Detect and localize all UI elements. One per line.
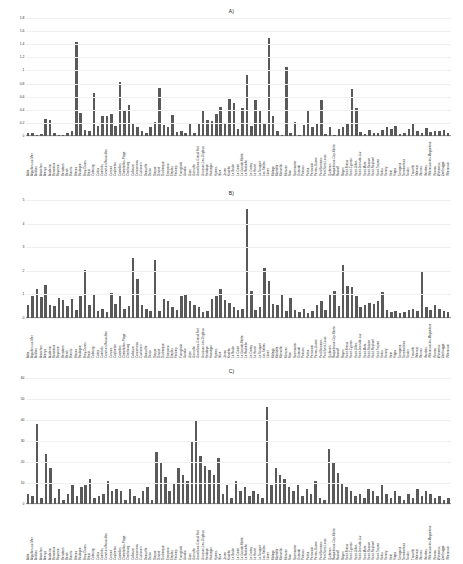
panel-c-plot: MAE (euros/inhabitant) 0102030405060 Adr…	[26, 378, 451, 504]
bar	[355, 296, 357, 318]
x-axis-tick-label: Hossegor	[210, 136, 213, 176]
x-axis-tick-label: Nice	[289, 504, 292, 560]
bar	[381, 485, 383, 504]
x-axis-tick-label: Fecamp	[175, 318, 178, 358]
bar	[328, 449, 330, 504]
bar	[376, 496, 378, 504]
x-label-slot: Villeneuve	[446, 318, 450, 358]
x-axis-tick-label: Arenys	[44, 504, 47, 560]
y-axis-tick-label: 0	[23, 502, 25, 506]
bar	[268, 38, 270, 136]
y-axis-tick-label: 0.8	[20, 82, 25, 86]
x-axis-tick-label: Toulon	[407, 318, 410, 358]
bar	[354, 496, 356, 504]
x-axis-tick-label: Canet-en-Roussillon	[105, 136, 108, 176]
bar	[338, 306, 340, 318]
y-axis-tick-label: 50	[21, 397, 25, 401]
x-axis-tick-label: Marseille	[280, 318, 283, 358]
bar	[292, 491, 294, 504]
x-axis-tick-label: La Baule	[232, 318, 235, 358]
x-axis-tick-label: Sanary	[385, 318, 388, 358]
bar	[377, 301, 379, 318]
bar	[224, 300, 226, 318]
bar	[184, 294, 186, 318]
x-axis-tick-label: Saint-Cyprien	[350, 504, 353, 560]
bar	[228, 99, 230, 136]
x-axis-tick-label: Port-Saint-Louis	[324, 136, 327, 176]
bar	[246, 209, 248, 318]
bar	[132, 258, 134, 318]
bar	[119, 296, 121, 318]
bar	[53, 306, 55, 318]
x-axis-tick-label: Vannes	[420, 504, 423, 560]
bar	[128, 306, 130, 318]
x-label-slot: Bray-Dunes	[83, 504, 87, 560]
bar	[346, 124, 348, 136]
bar	[136, 127, 138, 136]
panel-a-title: A)	[0, 8, 463, 14]
bar	[364, 305, 366, 318]
bar	[316, 123, 318, 136]
bar	[329, 127, 331, 136]
x-axis-tick-label: Vannes	[420, 136, 423, 176]
bar	[306, 489, 308, 504]
bar	[101, 309, 103, 318]
bar	[390, 129, 392, 136]
bar	[36, 424, 38, 504]
bar	[76, 496, 78, 504]
x-label-slot: Villeneuve	[446, 136, 450, 176]
gridline	[26, 378, 451, 379]
bar	[97, 126, 99, 136]
gridline	[26, 224, 451, 225]
y-axis-tick-label: 2	[23, 269, 25, 273]
y-axis-tick-label: 4	[23, 222, 25, 226]
x-axis-tick-label: Cherbourg	[127, 504, 130, 560]
bar	[79, 113, 81, 136]
bar	[301, 496, 303, 504]
bar-slot	[446, 18, 450, 136]
x-axis-tick-label: Cabourg	[92, 318, 95, 358]
x-axis-tick-label: Saint-Raphael	[372, 136, 375, 176]
bar	[75, 42, 77, 136]
bar	[198, 307, 200, 318]
x-axis-tick-label: Canet-en-Roussillon	[105, 318, 108, 358]
bar	[279, 475, 281, 504]
bar	[254, 100, 256, 136]
panel-a-xlabels: AdraAiguillon-sur-MerAntibesArcachonAren…	[26, 136, 451, 176]
bar	[204, 466, 206, 504]
y-axis-tick-label: 20	[21, 460, 25, 464]
x-axis-tick-label: Villeneuve-les-Maguelone	[429, 504, 432, 560]
x-axis-tick-label: Marseille	[280, 504, 283, 560]
figure-root: A) MAE (km²) 00.20.40.60.811.21.41.61.8 …	[0, 0, 463, 564]
bar	[84, 485, 86, 504]
bar	[71, 299, 73, 318]
bar	[191, 441, 193, 504]
y-axis-tick-label: 0	[23, 134, 25, 138]
bar	[189, 301, 191, 318]
bar	[297, 485, 299, 504]
x-axis-tick-label: Capbreton	[114, 136, 117, 176]
x-axis-tick-label: Saint-Raphael	[372, 318, 375, 358]
y-axis-tick-label: 1	[23, 292, 25, 296]
bar	[215, 296, 217, 318]
y-axis-tick-label: 1.8	[20, 16, 25, 20]
panel-b: B) RMSE (km²) 012345 AdraAiguillon-sur-M…	[0, 186, 463, 374]
panel-c-xlabels: AdraAiguillon-sur-MerAntibesArcachonAren…	[26, 504, 451, 560]
panel-b-plot: RMSE (km²) 012345 AdraAiguillon-sur-MerA…	[26, 200, 451, 318]
x-axis-tick-label: Gandia	[184, 136, 187, 176]
bar	[407, 494, 409, 505]
bar	[310, 494, 312, 505]
bar	[193, 305, 195, 318]
bar	[244, 487, 246, 504]
bar	[412, 309, 414, 318]
bar	[98, 496, 100, 504]
y-axis-tick-label: 1	[23, 68, 25, 72]
bar	[168, 491, 170, 504]
x-axis-tick-label: Saint-Cyprien	[350, 318, 353, 358]
bar-slot	[446, 200, 450, 318]
bar	[31, 496, 33, 504]
x-axis-tick-label: Sitges	[394, 504, 397, 560]
bar	[71, 485, 73, 504]
x-axis-tick-label: Sanary	[385, 504, 388, 560]
bar	[272, 116, 274, 136]
